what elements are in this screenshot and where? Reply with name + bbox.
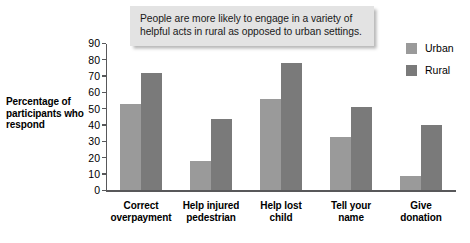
bar-rural [141,73,162,191]
y-axis-tick-label: 30 [78,136,100,147]
y-axis-tick-mark [102,59,106,60]
legend-label: Rural [425,64,450,76]
y-axis-tick-mark [102,173,106,174]
bar-urban [260,99,281,190]
bar-group [190,43,232,190]
y-axis-tick-mark [102,124,106,125]
y-axis-tick-label: 60 [78,87,100,98]
bar-urban [400,176,421,191]
y-axis-tick-label: 10 [78,169,100,180]
y-axis-tick-label: 80 [78,55,100,66]
y-axis-tick-mark [102,141,106,142]
y-axis-tick-label: 20 [78,153,100,164]
x-axis-category-line: Give [376,200,466,212]
bar-chart: Percentage of participants who respond 9… [0,0,470,243]
bar-rural [281,63,302,190]
bar-rural [211,119,232,191]
bar-urban [330,137,351,191]
bar-group [260,43,302,190]
y-axis-tick-label: 90 [78,38,100,49]
y-axis-tick-label: 0 [78,185,100,196]
legend-label: Urban [425,42,454,54]
x-axis-category-line: donation [376,212,466,224]
x-axis-line [106,190,456,191]
y-axis-tick-mark [102,43,106,44]
bar-urban [120,104,141,191]
legend-swatch-icon [406,43,417,54]
bar-rural [351,107,372,190]
callout-text: People are more likely to engage in a va… [140,13,365,38]
y-axis-tick-label: 50 [78,104,100,115]
y-axis-tick-mark [102,157,106,158]
y-axis-tick-labels: 9080706050403020100 [74,38,100,198]
y-axis-tick-mark [102,75,106,76]
legend-item-rural: Rural [406,63,470,81]
y-axis-tick-mark [102,108,106,109]
y-axis-title: Percentage of participants who respond [6,96,84,131]
legend: UrbanRural [406,41,470,85]
x-axis-category-label: Givedonation [376,200,466,223]
y-axis-tick-mark [102,92,106,93]
legend-swatch-icon [406,65,417,76]
bar-group [120,43,162,190]
y-axis-line [106,44,107,191]
y-axis-tick-mark [102,190,106,191]
callout-box: People are more likely to engage in a va… [130,6,374,46]
y-axis-tick-label: 40 [78,120,100,131]
legend-item-urban: Urban [406,41,470,59]
y-axis-tick-label: 70 [78,71,100,82]
bar-group [330,43,372,190]
plot-area [106,38,456,198]
bar-rural [421,125,442,190]
bar-urban [190,161,211,190]
